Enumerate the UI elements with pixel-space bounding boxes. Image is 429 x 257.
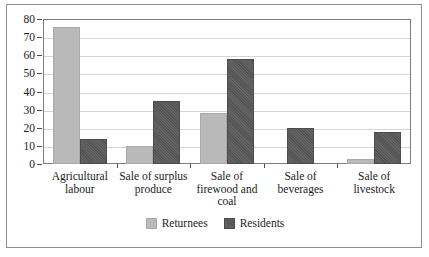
x-category-label-line: Agricultural [44, 170, 116, 183]
y-tick-mark [37, 19, 42, 20]
x-category-label-line: firewood and [191, 183, 263, 196]
bar-group [264, 19, 338, 164]
y-tick-label: 50 [24, 67, 36, 79]
bar-returnees [53, 27, 80, 164]
clipped-caption-strip [0, 0, 429, 3]
legend-item: Residents [224, 217, 285, 229]
y-tick-label: 60 [24, 49, 36, 61]
chart-legend: ReturneesResidents [7, 217, 423, 229]
x-category-label: Sale offirewood andcoal [190, 170, 264, 208]
y-tick-label: 40 [24, 86, 36, 98]
x-axis-ticks [43, 164, 411, 169]
y-tick-label: 20 [24, 122, 36, 134]
x-tick-mark [190, 164, 191, 168]
x-category-label: Sale of surplusproduce [117, 170, 191, 208]
y-tick-mark [37, 73, 42, 74]
bar-group [117, 19, 191, 164]
bars-layer [43, 19, 411, 164]
x-category-label-line: coal [191, 195, 263, 208]
bar-returnees [126, 146, 153, 164]
bar-residents [287, 128, 314, 164]
x-category-label-line: Sale of surplus [118, 170, 190, 183]
y-tick-mark [37, 128, 42, 129]
bar-returnees [200, 113, 227, 164]
legend-label: Residents [240, 217, 285, 229]
bar-group [190, 19, 264, 164]
y-axis: 01020304050607080 [7, 13, 37, 169]
x-category-label-line: Sale of [338, 170, 410, 183]
bar-residents [80, 139, 107, 164]
y-tick-label: 70 [24, 31, 36, 43]
y-tick-label: 80 [24, 13, 36, 25]
bar-residents [153, 101, 180, 164]
y-tick-mark [37, 110, 42, 111]
legend-label: Returnees [162, 217, 208, 229]
figure-frame: 01020304050607080 AgriculturallabourSale… [6, 4, 422, 248]
y-tick-label: 0 [29, 158, 35, 170]
y-tick-label: 30 [24, 104, 36, 116]
x-category-label-line: beverages [265, 183, 337, 196]
legend-swatch-returnees [146, 218, 157, 229]
y-tick-mark [37, 92, 42, 93]
y-tick-mark [37, 146, 42, 147]
x-axis-labels: AgriculturallabourSale of surplusproduce… [43, 170, 411, 208]
y-tick-mark [37, 55, 42, 56]
x-tick-mark [117, 164, 118, 168]
bar-group [43, 19, 117, 164]
bar-group [337, 19, 411, 164]
x-category-label-line: Sale of [191, 170, 263, 183]
bar-residents [374, 132, 401, 164]
legend-swatch-residents [224, 218, 235, 229]
x-category-label-line: produce [118, 183, 190, 196]
x-tick-mark [264, 164, 265, 168]
x-category-label: Sale ofbeverages [264, 170, 338, 208]
y-tick-mark [37, 37, 42, 38]
legend-item: Returnees [146, 217, 208, 229]
x-category-label: Agriculturallabour [43, 170, 117, 208]
x-tick-mark [337, 164, 338, 168]
x-category-label-line: Sale of [265, 170, 337, 183]
x-category-label: Sale oflivestock [337, 170, 411, 208]
y-tick-label: 10 [24, 140, 36, 152]
bar-residents [227, 59, 254, 164]
x-category-label-line: livestock [338, 183, 410, 196]
y-tick-mark [37, 164, 42, 165]
bar-chart: 01020304050607080 AgriculturallabourSale… [7, 5, 423, 249]
x-category-label-line: labour [44, 183, 116, 196]
